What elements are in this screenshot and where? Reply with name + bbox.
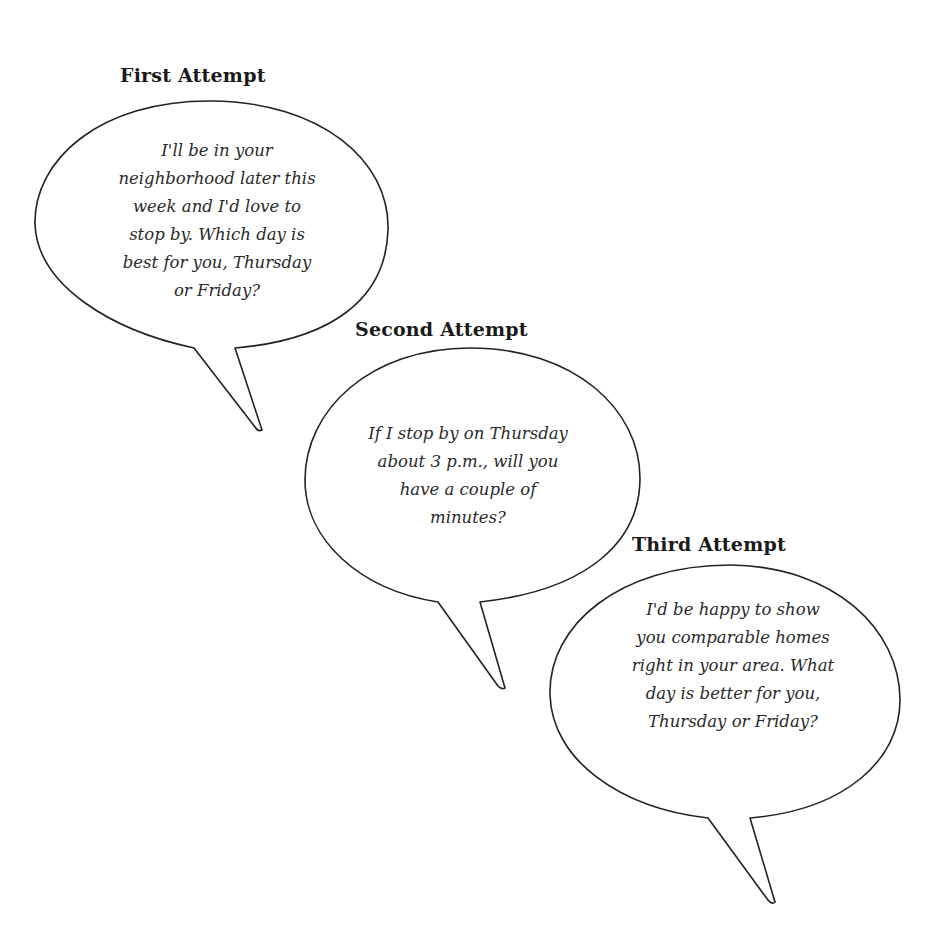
bubble-1-message: I'll be in your neighborhood later this … [92,137,342,305]
bubble-2-message: If I stop by on Thursday about 3 p.m., w… [318,420,618,532]
bubble-1-title: First Attempt [120,64,266,86]
bubble-3-title: Third Attempt [632,533,786,555]
bubble-3-message: I'd be happy to show you comparable home… [588,596,878,736]
bubble-2-title: Second Attempt [355,318,528,340]
